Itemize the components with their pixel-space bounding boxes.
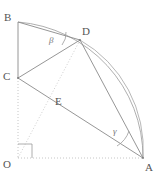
- vertex-label-C: C: [3, 71, 10, 82]
- geometry-diagram: B C O D E A β γ: [0, 0, 163, 179]
- vertex-label-A: A: [145, 162, 153, 173]
- vertex-dot-D: [79, 39, 81, 41]
- segment-CA: [18, 78, 143, 158]
- segment-OD: [18, 40, 80, 158]
- vertex-label-D: D: [82, 26, 90, 37]
- right-angle-marker-icon: [18, 144, 32, 158]
- angle-label-gamma: γ: [113, 127, 117, 136]
- segment-DA: [80, 40, 143, 158]
- vertex-dot-A: [142, 157, 144, 159]
- vertex-label-E: E: [55, 96, 62, 107]
- vertex-dot-C: [17, 77, 19, 79]
- vertex-label-B: B: [4, 12, 11, 23]
- vertex-label-O: O: [3, 159, 11, 170]
- angle-label-beta: β: [49, 36, 53, 45]
- segment-CD: [18, 40, 80, 78]
- angle-arc-gamma: [117, 131, 129, 146]
